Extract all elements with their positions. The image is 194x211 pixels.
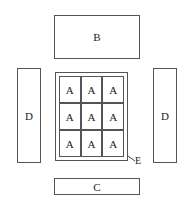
label-e: E bbox=[135, 155, 141, 166]
box-c-label: C bbox=[93, 181, 100, 193]
box-c: C bbox=[54, 178, 140, 195]
